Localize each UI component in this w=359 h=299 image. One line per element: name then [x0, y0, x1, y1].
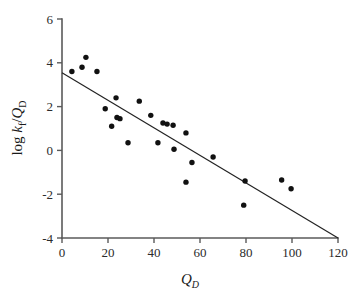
data-point	[94, 69, 99, 74]
data-point	[117, 116, 122, 121]
data-point	[241, 202, 246, 207]
axes-group	[62, 19, 338, 238]
data-point	[125, 140, 130, 145]
y-axis-title: log kf/QD	[9, 100, 28, 155]
scatter-plot-figure: 6420-2-4 020406080100120 QD log kf/QD	[0, 0, 359, 299]
y-axis-tick-labels: 6420-2-4	[42, 12, 53, 246]
y-tick-label: 0	[47, 143, 54, 158]
data-point	[183, 179, 188, 184]
data-point	[183, 130, 188, 135]
data-point	[69, 69, 74, 74]
data-point	[137, 98, 142, 103]
data-point	[170, 123, 175, 128]
x-tick-label: 80	[240, 245, 253, 260]
data-point	[83, 55, 88, 60]
regression-line	[62, 73, 338, 238]
data-point	[164, 121, 169, 126]
y-tick-label: 2	[47, 99, 54, 114]
data-point	[109, 124, 114, 129]
x-tick-label: 40	[148, 245, 161, 260]
data-point	[113, 95, 118, 100]
data-point	[171, 147, 176, 152]
x-tick-label: 20	[102, 245, 115, 260]
data-point	[148, 113, 153, 118]
y-tick-label: 6	[47, 12, 54, 27]
data-point	[279, 177, 284, 182]
y-tick-label: 4	[47, 55, 54, 70]
x-tick-label: 120	[328, 245, 348, 260]
data-points-group	[69, 55, 294, 208]
data-point	[288, 186, 293, 191]
x-tick-label: 0	[59, 245, 66, 260]
data-point	[79, 64, 84, 69]
data-point	[210, 154, 215, 159]
y-tick-label: -4	[42, 231, 53, 246]
y-tick-label: -2	[42, 187, 53, 202]
x-tick-label: 60	[194, 245, 207, 260]
x-axis-tick-labels: 020406080100120	[59, 245, 348, 260]
data-point	[155, 140, 160, 145]
data-point	[103, 106, 108, 111]
data-point	[242, 178, 247, 183]
x-tick-label: 100	[282, 245, 302, 260]
plot-canvas: 6420-2-4 020406080100120 QD log kf/QD	[0, 0, 359, 299]
x-axis-title: QD	[181, 271, 200, 290]
data-point	[189, 160, 194, 165]
